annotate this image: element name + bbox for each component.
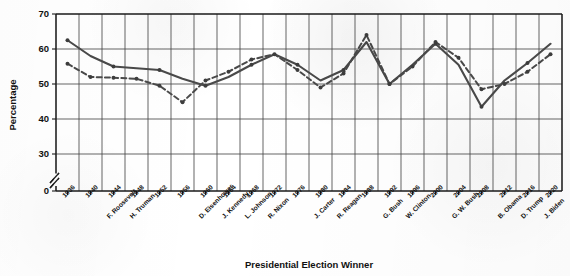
y-axis-ticks-group: 03040506070 bbox=[38, 8, 56, 196]
data-point-marker bbox=[296, 63, 300, 67]
data-point-marker bbox=[66, 38, 70, 42]
data-point-marker bbox=[319, 86, 323, 90]
y-axis-break-symbol bbox=[50, 173, 59, 188]
x-axis-winner-label-DTrump: D. Trump bbox=[519, 195, 545, 221]
data-point-marker bbox=[273, 52, 277, 56]
data-point-marker bbox=[434, 40, 438, 44]
x-axis-winner-label-RNixon: R. Nixon bbox=[266, 196, 290, 220]
data-point-marker bbox=[250, 58, 254, 62]
data-point-marker bbox=[227, 70, 231, 74]
x-axis-title: Presidential Election Winner bbox=[245, 259, 373, 270]
data-point-marker bbox=[480, 87, 484, 91]
data-point-marker bbox=[549, 52, 553, 56]
data-point-marker bbox=[204, 84, 208, 88]
data-point-marker bbox=[365, 33, 369, 37]
data-point-marker bbox=[411, 65, 415, 69]
data-point-marker bbox=[135, 77, 139, 81]
data-point-marker bbox=[388, 82, 392, 86]
y-axis-tick-label-50: 50 bbox=[38, 78, 49, 89]
data-point-marker bbox=[480, 105, 484, 109]
y-axis-tick-label-70: 70 bbox=[38, 8, 49, 19]
x-axis-winner-label-JCarter: J. Carter bbox=[312, 196, 336, 220]
y-axis-tick-label-60: 60 bbox=[38, 43, 49, 54]
data-point-marker bbox=[66, 62, 70, 66]
data-point-marker bbox=[526, 70, 530, 74]
data-point-marker bbox=[342, 72, 346, 76]
chart-canvas: 0304050607019361940194419481952195619601… bbox=[0, 0, 570, 276]
x-axis-winner-label-JBiden: J. Biden bbox=[542, 197, 565, 220]
data-point-marker bbox=[204, 79, 208, 83]
data-point-marker bbox=[158, 84, 162, 88]
y-axis-tick-label-0: 0 bbox=[44, 185, 49, 196]
data-point-marker bbox=[342, 68, 346, 72]
data-point-marker bbox=[250, 63, 254, 67]
y-axis-tick-label-40: 40 bbox=[38, 113, 49, 124]
y-axis-tick-label-30: 30 bbox=[38, 148, 49, 159]
chart-figure: 0304050607019361940194419481952195619601… bbox=[0, 0, 570, 276]
data-point-marker bbox=[89, 75, 93, 79]
data-point-marker bbox=[112, 65, 116, 69]
data-point-marker bbox=[181, 100, 185, 104]
data-point-marker bbox=[457, 56, 461, 60]
data-point-marker bbox=[503, 82, 507, 86]
data-point-marker bbox=[112, 76, 116, 80]
data-point-marker bbox=[158, 68, 162, 72]
y-axis-title: Percentage bbox=[7, 79, 18, 130]
x-axis-winner-label-GBush: G. Bush bbox=[381, 197, 404, 220]
data-point-marker bbox=[296, 68, 300, 72]
x-axis-winner-labels-group: F. RooseveltH. TrumanD. EisenhowerJ. Ken… bbox=[105, 182, 565, 220]
data-point-marker bbox=[526, 61, 530, 65]
